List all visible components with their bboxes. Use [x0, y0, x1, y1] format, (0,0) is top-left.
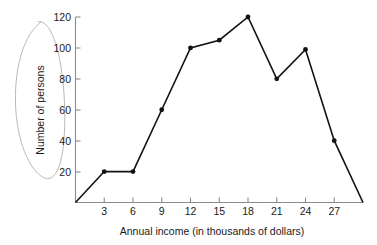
x-axis-ticks: 3 6 9 12 15 18 21 24 27	[101, 198, 340, 218]
x-tick-label-9: 9	[159, 205, 165, 217]
x-tick-label-24: 24	[300, 205, 312, 217]
y-tick-label-120: 120	[53, 11, 71, 23]
data-line-number-of-persons	[76, 17, 364, 203]
line-chart: Number of persons 120 100 80 60 40 20	[0, 0, 377, 245]
y-tick-label-100: 100	[53, 42, 71, 54]
y-tick-label-20: 20	[59, 166, 71, 178]
x-tick-label-21: 21	[271, 205, 283, 217]
y-axis-ticks: 120 100 80 60 40 20	[53, 11, 80, 178]
data-point	[332, 138, 337, 143]
y-axis-title: Number of persons	[34, 65, 46, 154]
data-point	[188, 46, 193, 51]
x-tick-label-27: 27	[328, 205, 340, 217]
data-point	[159, 107, 164, 112]
x-tick-label-12: 12	[185, 205, 197, 217]
data-point	[102, 169, 107, 174]
y-tick-label-40: 40	[59, 135, 71, 147]
y-tick-label-80: 80	[59, 73, 71, 85]
data-point	[131, 169, 136, 174]
data-point-markers	[102, 15, 337, 174]
x-tick-label-15: 15	[213, 205, 225, 217]
y-tick-label-60: 60	[59, 104, 71, 116]
x-tick-label-6: 6	[130, 205, 136, 217]
data-point	[274, 76, 279, 81]
data-point	[246, 15, 251, 20]
x-tick-label-18: 18	[242, 205, 254, 217]
data-point	[303, 47, 308, 52]
x-axis-title: Annual income (in thousands of dollars)	[120, 225, 304, 237]
chart-container: Number of persons 120 100 80 60 40 20	[0, 0, 377, 245]
data-point	[217, 38, 222, 43]
x-tick-label-3: 3	[101, 205, 107, 217]
